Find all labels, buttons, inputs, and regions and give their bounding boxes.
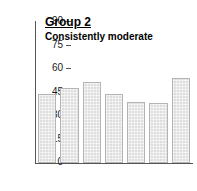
x-axis-tick-label: 5	[36, 190, 58, 191]
bar-slot	[60, 22, 78, 163]
x-axis-tick-label: 19	[170, 190, 192, 191]
bar-chart: Group 2 Consistently moderate 0153045607…	[0, 0, 197, 191]
bar	[60, 88, 78, 163]
bar-slot	[127, 22, 145, 163]
page-title: Group 2	[45, 16, 91, 29]
x-axis-tick-label: 13	[103, 190, 125, 191]
bar-slot	[38, 22, 56, 163]
chart-subtitle: Consistently moderate	[45, 31, 153, 43]
bar-slot	[83, 22, 101, 163]
x-axis-tick-label: 15	[125, 190, 147, 191]
bar	[105, 94, 123, 163]
x-axis-tick-label: 11	[81, 190, 103, 191]
bar	[172, 78, 190, 163]
bar	[83, 82, 101, 163]
bar	[38, 94, 56, 163]
plot-area: 0153045607590 581113151719	[36, 22, 192, 163]
chart-title-block: Group 2 Consistently moderate	[45, 12, 153, 43]
x-axis-tick-label: 17	[147, 190, 169, 191]
bar-slot	[172, 22, 190, 163]
bar-slot	[149, 22, 167, 163]
bar-slot	[105, 22, 123, 163]
x-axis-tick-label: 8	[58, 190, 80, 191]
bar	[149, 103, 167, 163]
bar	[127, 102, 145, 163]
